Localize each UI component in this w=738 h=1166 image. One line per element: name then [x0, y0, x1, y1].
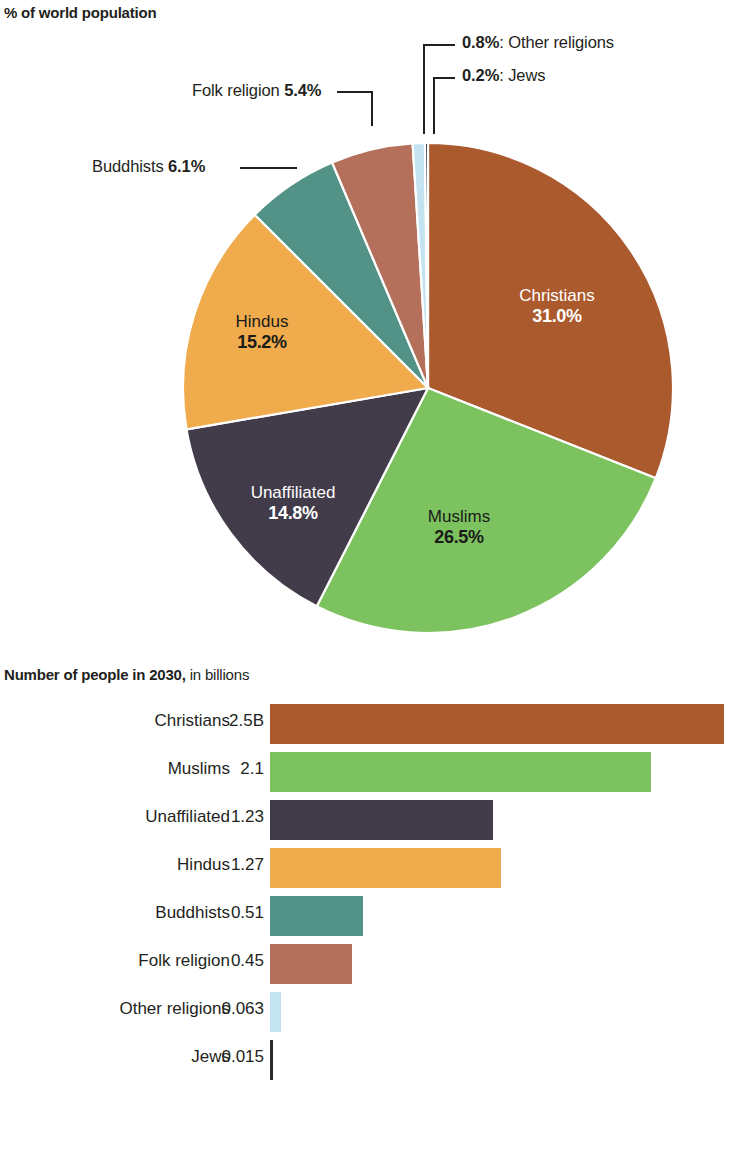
bar-value-label: 1.27	[206, 855, 264, 875]
bar-value-label: 0.063	[206, 999, 264, 1019]
leader-line-folk-religion-horizontal	[337, 91, 373, 93]
bar-row: Folk religion0.45	[0, 940, 738, 988]
leader-line-jews-vertical	[433, 77, 435, 134]
callout-buddhists-percent: 6.1%	[168, 157, 205, 175]
bar-fill	[270, 992, 281, 1032]
bar-value-label: 1.23	[206, 807, 264, 827]
callout-jews-percent: 0.2%	[462, 66, 499, 84]
pie-label-hindus-name: Hindus	[203, 312, 321, 332]
pie-label-muslims-name: Muslims	[400, 507, 518, 527]
pie-label-hindus: Hindus 15.2%	[203, 312, 321, 353]
leader-line-jews-horizontal	[433, 77, 455, 79]
callout-other-religions: 0.8%: Other religions	[462, 33, 614, 52]
pie-label-muslims: Muslims 26.5%	[400, 507, 518, 548]
bar-fill	[270, 704, 724, 744]
callout-other-religions-label: : Other religions	[499, 33, 614, 51]
bar-value-label: 0.015	[206, 1047, 264, 1067]
bar-chart: Christians2.5BMuslims2.1Unaffiliated1.23…	[0, 700, 738, 1084]
bar-track	[270, 992, 738, 1032]
bar-value-label: 2.1	[206, 759, 264, 779]
bar-track	[270, 944, 738, 984]
callout-folk-religion-percent: 5.4%	[284, 81, 321, 99]
bar-row: Christians2.5B	[0, 700, 738, 748]
pie-label-unaffiliated: Unaffiliated 14.8%	[226, 483, 360, 524]
pie-label-unaffiliated-percent: 14.8%	[226, 503, 360, 524]
bar-chart-title-bold: Number of people in 2030,	[4, 666, 186, 683]
leader-line-other-religions-horizontal	[423, 44, 455, 46]
bar-row: Buddhists0.51	[0, 892, 738, 940]
bar-fill	[270, 848, 501, 888]
callout-buddhists: Buddhists 6.1%	[92, 157, 205, 176]
pie-label-christians-percent: 31.0%	[498, 306, 616, 327]
pie-chart-svg	[0, 24, 738, 660]
pie-label-christians: Christians 31.0%	[498, 286, 616, 327]
bar-row: Unaffiliated1.23	[0, 796, 738, 844]
callout-buddhists-label: Buddhists	[92, 157, 168, 175]
leader-line-buddhists	[240, 167, 297, 169]
callout-jews-label: : Jews	[499, 66, 545, 84]
bar-fill	[270, 752, 651, 792]
pie-slice-group	[183, 143, 673, 633]
bar-track	[270, 752, 738, 792]
bar-track	[270, 848, 738, 888]
pie-label-unaffiliated-name: Unaffiliated	[226, 483, 360, 503]
callout-folk-religion-label: Folk religion	[192, 81, 284, 99]
pie-chart: 0.8%: Other religions 0.2%: Jews Folk re…	[0, 24, 738, 660]
bar-value-label: 0.51	[206, 903, 264, 923]
callout-jews: 0.2%: Jews	[462, 66, 545, 85]
bar-row: Hindus1.27	[0, 844, 738, 892]
bar-track	[270, 800, 738, 840]
bar-chart-title: Number of people in 2030, in billions	[4, 666, 249, 683]
bar-value-label: 2.5B	[206, 711, 264, 731]
bar-value-label: 0.45	[206, 951, 264, 971]
leader-line-other-religions-vertical	[423, 44, 425, 134]
bar-row: Other religions0.063	[0, 988, 738, 1036]
bar-fill	[270, 1040, 273, 1080]
bar-track	[270, 1040, 738, 1080]
bar-chart-title-light: in billions	[186, 666, 249, 683]
bar-fill	[270, 944, 352, 984]
callout-other-religions-percent: 0.8%	[462, 33, 499, 51]
pie-label-hindus-percent: 15.2%	[203, 332, 321, 353]
bar-row: Jews0.015	[0, 1036, 738, 1084]
bar-track	[270, 704, 738, 744]
pie-label-muslims-percent: 26.5%	[400, 527, 518, 548]
pie-chart-title: % of world population	[4, 4, 156, 21]
bar-fill	[270, 896, 363, 936]
pie-label-christians-name: Christians	[498, 286, 616, 306]
leader-line-folk-religion-vertical	[371, 91, 373, 126]
bar-fill	[270, 800, 493, 840]
bar-row: Muslims2.1	[0, 748, 738, 796]
callout-folk-religion: Folk religion 5.4%	[192, 81, 321, 100]
bar-track	[270, 896, 738, 936]
